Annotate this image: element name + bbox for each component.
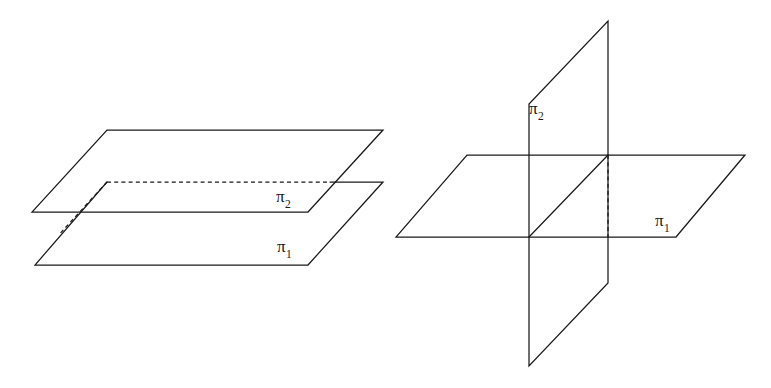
panel-intersecting-planes — [396, 21, 745, 366]
label-right-pi1-subscript: 1 — [664, 222, 670, 234]
line-of-intersection — [529, 155, 608, 237]
upper-plane-pi2 — [32, 130, 383, 212]
lower-plane-pi1 — [35, 182, 383, 265]
vertical-plane-pi2 — [529, 21, 608, 366]
label-right-pi2-subscript: 2 — [538, 110, 544, 122]
label-left-pi2: π2 — [276, 188, 290, 209]
vertical-plane-outline — [529, 21, 608, 366]
figure-canvas: π2 π1 π2 π1 — [0, 0, 771, 388]
upper-plane-outline — [32, 130, 383, 212]
lower-plane-visible-outline — [35, 182, 383, 265]
label-left-pi1-subscript: 1 — [286, 248, 292, 260]
label-left-pi1: π1 — [277, 238, 291, 259]
label-right-pi1: π1 — [655, 212, 669, 233]
label-right-pi2-base: π — [529, 99, 538, 118]
label-right-pi1-base: π — [655, 211, 664, 230]
label-left-pi2-base: π — [276, 187, 285, 206]
horizontal-plane-pi1 — [396, 155, 745, 237]
label-left-pi1-base: π — [277, 237, 286, 256]
label-right-pi2: π2 — [529, 100, 543, 121]
planes-diagram-svg — [0, 0, 771, 388]
horizontal-plane-outline — [396, 155, 745, 237]
label-left-pi2-subscript: 2 — [285, 198, 291, 210]
panel-parallel-planes — [32, 130, 383, 265]
intersection-visible-segment — [529, 155, 608, 237]
